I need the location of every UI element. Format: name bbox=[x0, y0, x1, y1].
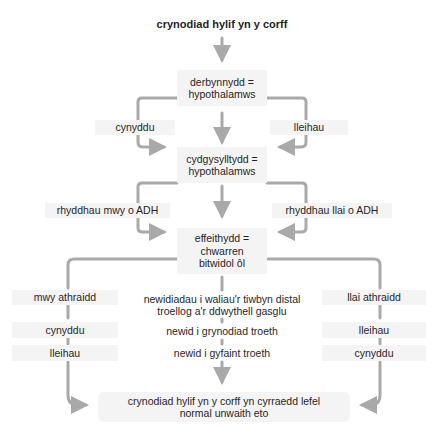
connector-lines bbox=[0, 0, 444, 437]
increase-label-1: cynyddu bbox=[95, 120, 175, 135]
result-box: crynodiad hylif yn y corff yn cyrraedd l… bbox=[98, 392, 350, 422]
title-text: crynodiad hylif yn y corff bbox=[157, 18, 288, 30]
left-step-1: mwy athraidd bbox=[12, 290, 118, 305]
more-adh-label: rhyddhau mwy o ADH bbox=[45, 203, 170, 218]
diagram-title: crynodiad hylif yn y corff bbox=[100, 18, 344, 30]
coordinator-box: cydgysylltydd = hypothalamws bbox=[177, 147, 267, 183]
center-step-3: newid i gyfaint troeth bbox=[130, 345, 314, 361]
center-step-2: newid i grynodiad troeth bbox=[130, 323, 314, 339]
effector-box: effeithydd = chwarren bitwidol ôl bbox=[177, 228, 267, 274]
decrease-label-1: lleihau bbox=[270, 120, 348, 135]
receptor-box: derbynnydd = hypothalamws bbox=[177, 70, 267, 106]
center-step-1: newidiadau i waliau'r tiwbyn distal troe… bbox=[120, 291, 324, 319]
left-step-2: cynyddu bbox=[12, 322, 118, 338]
left-step-3: lleihau bbox=[12, 345, 118, 361]
less-adh-label: rhyddhau llai o ADH bbox=[272, 203, 392, 218]
right-step-3: cynyddu bbox=[322, 345, 426, 361]
right-step-1: llai athraidd bbox=[322, 290, 426, 305]
right-step-2: lleihau bbox=[322, 322, 426, 338]
